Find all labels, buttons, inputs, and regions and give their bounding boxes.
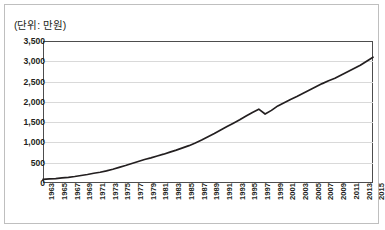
unit-label: (단위: 만원) bbox=[14, 17, 66, 32]
x-axis-tick-label: 1977 bbox=[136, 183, 145, 229]
y-axis-tick-label: 3,500 bbox=[0, 36, 45, 46]
x-axis-tick-label: 1995 bbox=[250, 183, 259, 229]
x-axis-ticks: 1963196519671969197119731975197719791981… bbox=[43, 185, 373, 230]
x-axis-tick-label: 2013 bbox=[365, 183, 374, 229]
series-polyline bbox=[43, 57, 373, 179]
x-axis-tick-label: 2007 bbox=[326, 183, 335, 229]
x-axis-tick-label: 2009 bbox=[339, 183, 348, 229]
x-axis-tick-label: 1975 bbox=[123, 183, 132, 229]
x-axis-tick-label: 1981 bbox=[161, 183, 170, 229]
x-axis-tick-label: 1963 bbox=[47, 183, 56, 229]
x-axis-tick-label: 1993 bbox=[238, 183, 247, 229]
x-axis-tick-label: 1989 bbox=[212, 183, 221, 229]
chart-figure: (단위: 만원) 05001,0001,5002,0002,5003,0003,… bbox=[4, 4, 379, 224]
x-axis-tick-label: 1971 bbox=[98, 183, 107, 229]
x-axis-tick-label: 1973 bbox=[111, 183, 120, 229]
x-axis-tick-label: 2005 bbox=[314, 183, 323, 229]
x-axis-tick-label: 1969 bbox=[85, 183, 94, 229]
x-axis-tick-label: 2011 bbox=[352, 183, 361, 229]
y-axis-tick-label: 0 bbox=[0, 178, 45, 188]
y-axis-tick-label: 3,000 bbox=[0, 56, 45, 66]
x-axis-tick-label: 1997 bbox=[263, 183, 272, 229]
x-axis-tick-label: 1991 bbox=[225, 183, 234, 229]
y-axis-tick-label: 2,000 bbox=[0, 97, 45, 107]
x-axis-tick-label: 1967 bbox=[73, 183, 82, 229]
y-axis-tick-label: 1,500 bbox=[0, 117, 45, 127]
x-axis-tick-label: 1965 bbox=[60, 183, 69, 229]
x-axis-tick-label: 1979 bbox=[149, 183, 158, 229]
y-axis-tick-label: 1,000 bbox=[0, 137, 45, 147]
y-axis-tick-label: 2,500 bbox=[0, 77, 45, 87]
plot-area bbox=[43, 41, 373, 183]
x-axis-tick-label: 2015 bbox=[377, 183, 385, 229]
x-axis-tick-label: 2003 bbox=[301, 183, 310, 229]
x-axis-tick-label: 1985 bbox=[187, 183, 196, 229]
x-axis-tick-label: 2001 bbox=[288, 183, 297, 229]
x-axis-tick-label: 1983 bbox=[174, 183, 183, 229]
y-axis-tick-label: 500 bbox=[0, 158, 45, 168]
line-series bbox=[43, 41, 373, 183]
x-axis-tick-label: 1987 bbox=[200, 183, 209, 229]
x-axis-tick-label: 1999 bbox=[276, 183, 285, 229]
